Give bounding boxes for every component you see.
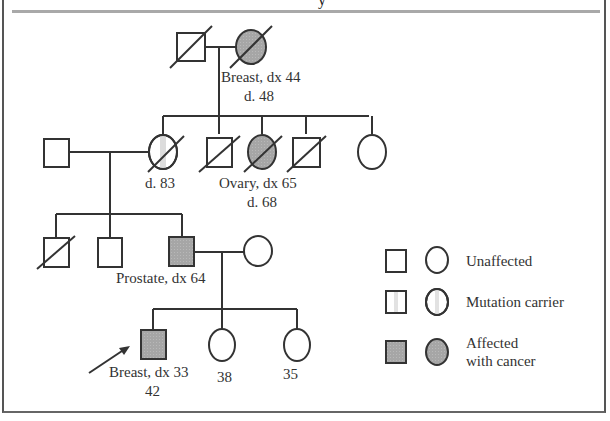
individual-III-3-male-affected bbox=[169, 237, 194, 266]
individual-II-6-female bbox=[358, 135, 386, 169]
label-IV-1-age: 42 bbox=[145, 383, 160, 400]
label-IV-1-diagnosis: Breast, dx 33 bbox=[109, 364, 189, 381]
label-IV-3-age: 35 bbox=[283, 366, 298, 383]
label-II-4-death: d. 68 bbox=[247, 194, 277, 211]
label-III-3-diagnosis: Prostate, dx 64 bbox=[116, 270, 206, 287]
individual-I-2-female-affected-deceased bbox=[230, 26, 272, 68]
individual-II-5-male-deceased bbox=[287, 136, 326, 172]
legend-carrier-label: Mutation carrier bbox=[466, 293, 564, 311]
legend-unaffected-label: Unaffected bbox=[466, 252, 532, 270]
legend-unaffected-icon bbox=[386, 247, 448, 273]
individual-IV-3-female bbox=[284, 329, 310, 361]
label-II-2-death: d. 83 bbox=[145, 175, 175, 192]
individual-III-1-male-deceased bbox=[37, 236, 75, 269]
legend-affected-label-line2: with cancer bbox=[466, 352, 536, 370]
label-II-4-diagnosis: Ovary, dx 65 bbox=[219, 175, 297, 192]
label-I-2-death: d. 48 bbox=[244, 88, 274, 105]
label-I-2-diagnosis: Breast, dx 44 bbox=[221, 69, 301, 86]
individual-III-4-female-spouse bbox=[244, 236, 272, 266]
legend-symbols bbox=[386, 247, 448, 365]
legend-affected-label-line1: Affected bbox=[466, 334, 518, 352]
legend-affected-icon bbox=[386, 339, 448, 365]
individual-III-2-male bbox=[98, 238, 122, 267]
individual-II-3-male-deceased bbox=[199, 136, 240, 172]
legend-carrier-icon bbox=[386, 289, 448, 315]
individual-IV-2-female bbox=[209, 329, 235, 361]
individual-IV-1-proband-affected bbox=[141, 330, 166, 359]
individual-II-4-female-affected-deceased bbox=[244, 135, 282, 172]
individual-II-1-male-spouse bbox=[44, 139, 69, 167]
individual-II-2-female-carrier-deceased bbox=[148, 135, 184, 172]
label-IV-2-age: 38 bbox=[217, 369, 232, 386]
